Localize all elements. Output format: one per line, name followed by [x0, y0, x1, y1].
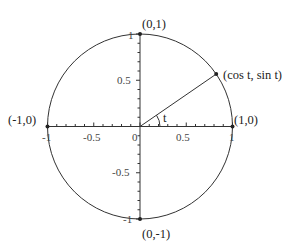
point-label-terminal: (cos t, sin t): [223, 68, 282, 82]
angle-label: t: [163, 111, 167, 125]
radius-line: [140, 74, 216, 126]
x-tick-label-0: 0: [132, 131, 138, 143]
y-tick-label-neg0.5: -0.5: [112, 166, 130, 178]
point-marker-terminal: [214, 72, 218, 76]
y-tick-label-0.5: 0.5: [117, 74, 131, 86]
x-tick-label-neg0.5: -0.5: [83, 131, 101, 143]
point-marker-left: [46, 125, 50, 129]
point-marker-top: [138, 32, 142, 36]
x-tick-label-0.5: 0.5: [176, 131, 190, 143]
y-tick-label-1: 1: [128, 29, 134, 41]
point-label-bottom: (0,-1): [142, 227, 170, 241]
x-tick-label-neg1: -1: [42, 131, 51, 143]
unit-circle-diagram: t (0,1) (0,-1) (-1,0) (1,0) (cos t, sin …: [0, 0, 298, 247]
point-label-right: (1,0): [234, 113, 258, 127]
point-marker-bottom: [138, 217, 142, 221]
point-label-top: (0,1): [142, 17, 166, 31]
x-tick-label-1: 1: [229, 131, 235, 143]
y-axis-ticks: [136, 34, 140, 219]
point-label-left: (-1,0): [8, 113, 36, 127]
y-tick-label-neg1: -1: [123, 213, 132, 225]
